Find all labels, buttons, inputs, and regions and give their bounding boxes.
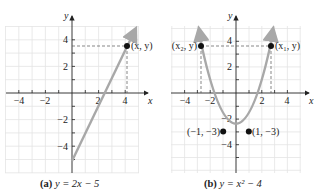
x-axis-label: x (308, 95, 314, 106)
caption-a: (a) y = 2x − 5 (40, 178, 99, 189)
panel-a: −4 −2 2 4 4 2 −2 −4 x y (x, y) (5, 10, 153, 173)
x-tick-label: −2 (205, 95, 216, 106)
y-axis-label: y (63, 10, 69, 21)
caption-b-equation: y = x² − 4 (219, 178, 261, 189)
x-tick-label: −4 (180, 95, 191, 106)
y-tick-label: 4 (227, 35, 232, 46)
x-tick-label: −4 (14, 95, 25, 106)
data-point (198, 43, 204, 49)
x-tick-label: 4 (123, 95, 128, 106)
data-point (124, 43, 130, 49)
caption-a-prefix: (a) (40, 178, 52, 189)
caption-a-equation: y = 2x − 5 (55, 178, 100, 189)
point-label: (−1, −3) (187, 126, 220, 138)
figure: −4 −2 2 4 4 2 −2 −4 x y (x, y) (0, 0, 322, 195)
x-tick-label: 2 (260, 95, 265, 106)
y-tick-label: −2 (57, 114, 68, 125)
y-tick-label: 2 (63, 61, 68, 72)
x-tick-label: 4 (285, 95, 290, 106)
caption-b: (b) y = x² − 4 (204, 178, 262, 189)
x-axis-label: x (147, 95, 153, 106)
y-tick-label: −4 (221, 139, 232, 150)
point-label: (x₁, y) (275, 40, 300, 52)
panel-b: −4 −2 2 4 4 2 −2 −4 x y (x₂, y) (x₁, y) … (171, 10, 314, 173)
y-tick-label: −4 (57, 141, 68, 152)
data-point (246, 128, 252, 134)
y-axis-label: y (227, 10, 233, 21)
point-label: (1, −3) (252, 126, 279, 138)
point-label: (x₂, y) (172, 40, 197, 52)
point-label: (x, y) (131, 40, 153, 52)
y-tick-label: 2 (227, 61, 232, 72)
x-tick-label: −2 (40, 95, 51, 106)
data-point (220, 128, 226, 134)
data-point (268, 43, 274, 49)
y-tick-label: 4 (63, 34, 68, 45)
caption-b-prefix: (b) (204, 178, 217, 189)
